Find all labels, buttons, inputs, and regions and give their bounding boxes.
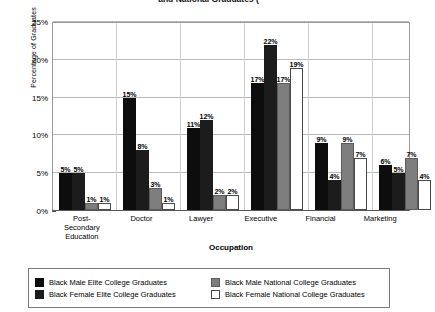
y-axis-tick-label: 25% — [8, 18, 48, 27]
bar[interactable]: 22% — [264, 45, 277, 210]
bar-value-label: 9% — [342, 136, 352, 143]
x-axis-category-label: Financial — [291, 214, 351, 241]
bar[interactable]: 17% — [251, 83, 264, 210]
bar-value-label: 8% — [137, 143, 147, 150]
chart-title-clipped: and National Graduates ( — [0, 0, 417, 5]
x-axis-category-label: Doctor — [112, 214, 172, 241]
y-axis-ticks: 0%5%10%15%20%25% — [4, 0, 48, 312]
x-axis-category-labels: Post-SecondaryEducationDoctorLawyerExecu… — [52, 214, 410, 241]
bar[interactable]: 7% — [354, 158, 367, 210]
legend-label: Black Female Elite College Graduates — [49, 290, 176, 299]
bar-value-label: 1% — [163, 196, 173, 203]
y-axis-tick-label: 15% — [8, 93, 48, 102]
bar-group: 9%4%9%7% — [309, 23, 373, 210]
bar-value-label: 19% — [289, 61, 303, 68]
bar-value-label: 5% — [73, 166, 83, 173]
bar-value-label: 2% — [227, 188, 237, 195]
bar-value-label: 12% — [199, 113, 213, 120]
plot-area: 5%5%1%1%15%8%3%1%11%12%2%2%17%22%17%19%9… — [52, 22, 410, 211]
y-axis-tick-label: 0% — [8, 207, 48, 216]
x-axis-title: Occupation — [52, 243, 410, 252]
x-axis-category-label: Lawyer — [171, 214, 231, 241]
bar-value-label: 5% — [393, 166, 403, 173]
bar-groups: 5%5%1%1%15%8%3%1%11%12%2%2%17%22%17%19%9… — [53, 23, 409, 210]
bar[interactable]: 9% — [341, 143, 354, 210]
chart-legend: Black Male Elite College GraduatesBlack … — [28, 268, 390, 308]
x-axis-category-label: Post-SecondaryEducation — [52, 214, 112, 241]
gridline — [53, 21, 409, 22]
legend-item[interactable]: Black Male Elite College Graduates — [35, 278, 207, 287]
bar-value-label: 17% — [276, 76, 290, 83]
bar-group: 6%5%7%4% — [373, 23, 435, 210]
bar-value-label: 4% — [329, 173, 339, 180]
bar-value-label: 1% — [99, 196, 109, 203]
bar[interactable]: 1% — [162, 203, 175, 210]
bar-value-label: 15% — [122, 91, 136, 98]
legend-label: Black Male Elite College Graduates — [49, 278, 167, 287]
bar-value-label: 22% — [263, 38, 277, 45]
bar-value-label: 7% — [406, 151, 416, 158]
bar[interactable]: 11% — [187, 128, 200, 210]
bar[interactable]: 1% — [98, 203, 111, 210]
bar-value-label: 3% — [150, 181, 160, 188]
legend-label: Black Female National College Graduates — [225, 290, 365, 299]
legend-item[interactable]: Black Female National College Graduates — [211, 290, 383, 299]
y-axis-tick-mark — [52, 211, 56, 212]
bar-value-label: 2% — [214, 188, 224, 195]
bar[interactable]: 5% — [59, 173, 72, 210]
bar-value-label: 5% — [60, 166, 70, 173]
bar[interactable]: 2% — [213, 195, 226, 210]
legend-swatch-icon — [211, 290, 220, 299]
legend-item[interactable]: Black Female Elite College Graduates — [35, 290, 207, 299]
bar-value-label: 17% — [250, 76, 264, 83]
bar[interactable]: 3% — [149, 188, 162, 210]
bar-value-label: 4% — [419, 173, 429, 180]
bar-group: 15%8%3%1% — [117, 23, 181, 210]
y-axis-tick-label: 5% — [8, 169, 48, 178]
x-axis-category-label: Executive — [231, 214, 291, 241]
y-axis-tick-label: 10% — [8, 131, 48, 140]
bar[interactable]: 2% — [226, 195, 239, 210]
bar[interactable]: 4% — [418, 180, 431, 210]
legend-swatch-icon — [211, 278, 220, 287]
bar[interactable]: 5% — [392, 173, 405, 210]
bar[interactable]: 17% — [277, 83, 290, 210]
bar[interactable]: 5% — [72, 173, 85, 210]
bar[interactable]: 6% — [379, 165, 392, 210]
legend-swatch-icon — [35, 290, 44, 299]
chart-title-text: and National Graduates ( — [0, 0, 417, 5]
bar[interactable]: 4% — [328, 180, 341, 210]
x-axis-category-label: Marketing — [350, 214, 410, 241]
bar-value-label: 9% — [316, 136, 326, 143]
bar[interactable]: 7% — [405, 158, 418, 210]
legend-label: Black Male National College Graduates — [225, 278, 356, 287]
bar[interactable]: 9% — [315, 143, 328, 210]
bar-group: 17%22%17%19% — [245, 23, 309, 210]
y-axis-tick-label: 20% — [8, 55, 48, 64]
bar-value-label: 1% — [86, 196, 96, 203]
bar-value-label: 6% — [380, 158, 390, 165]
bar-value-label: 7% — [355, 151, 365, 158]
bar-group: 11%12%2%2% — [181, 23, 245, 210]
bar-group: 5%5%1%1% — [53, 23, 117, 210]
bar[interactable]: 8% — [136, 150, 149, 210]
bar[interactable]: 1% — [85, 203, 98, 210]
bar[interactable]: 12% — [200, 120, 213, 210]
bar[interactable]: 19% — [290, 68, 303, 210]
legend-item[interactable]: Black Male National College Graduates — [211, 278, 383, 287]
legend-swatch-icon — [35, 278, 44, 287]
bar-value-label: 11% — [187, 121, 201, 128]
bar[interactable]: 15% — [123, 98, 136, 210]
